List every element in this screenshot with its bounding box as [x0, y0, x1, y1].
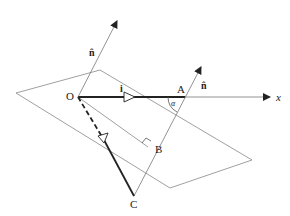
unit-i-arrow-icon: [124, 92, 135, 102]
plane-line-through-O: [78, 97, 148, 147]
plane: [16, 70, 252, 188]
label-O: O: [66, 90, 74, 102]
diagram-canvas: O A B C n̂ n̂ i x α: [0, 0, 290, 216]
right-angle-icon: [142, 138, 151, 143]
normal-line-ABC: [134, 67, 201, 196]
label-unit-i: i: [120, 83, 123, 94]
diagram-svg: O A B C n̂ n̂ i x α: [0, 0, 290, 216]
label-normal-top: n̂: [89, 47, 95, 58]
label-A: A: [177, 83, 185, 95]
label-x-axis: x: [275, 91, 281, 103]
label-normal-right: n̂: [201, 80, 207, 91]
label-B: B: [155, 143, 162, 155]
label-C: C: [130, 198, 137, 210]
label-angle-alpha: α: [171, 99, 176, 108]
reflected-vector-arrow-icon: [98, 133, 108, 143]
normal-vector-top: [78, 21, 117, 97]
segment-OC-solid: [104, 140, 134, 196]
